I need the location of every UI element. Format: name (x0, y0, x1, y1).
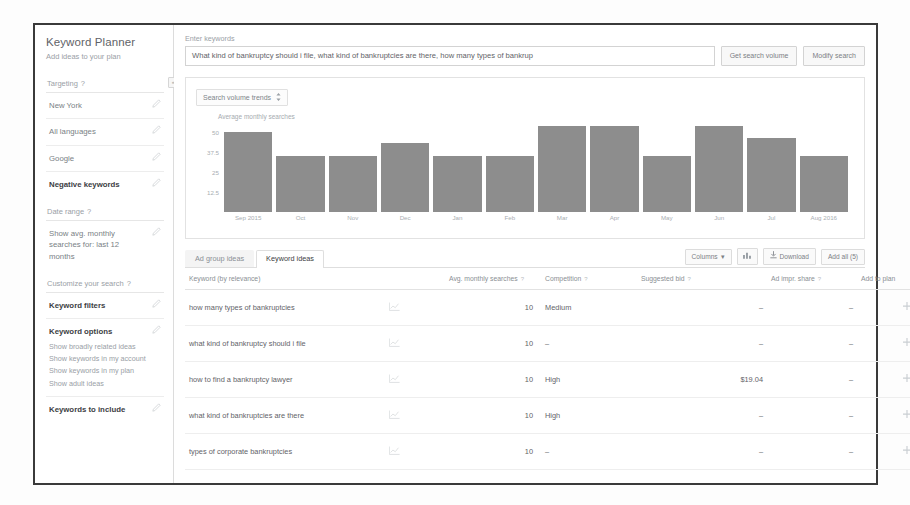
sidebar-item-date-range[interactable]: Show avg. monthly searches for: last 12 … (46, 221, 164, 269)
sidebar-item-languages[interactable]: All languages (46, 119, 164, 145)
edit-pencil-icon[interactable] (152, 299, 161, 308)
tab-ad-group-ideas[interactable]: Ad group ideas (185, 250, 254, 267)
col-trend (385, 268, 445, 290)
col-label: Avg. monthly searches (449, 275, 518, 282)
sidebar-item-keywords-to-include[interactable]: Keywords to include (46, 397, 164, 422)
trend-graph-icon[interactable] (385, 326, 445, 362)
cell-keyword[interactable]: types of corporate bankruptcies (185, 434, 385, 470)
chart-bar[interactable] (695, 126, 743, 212)
cell-keyword[interactable]: what kind of bankruptcy should i file (185, 326, 385, 362)
chart-bar[interactable] (329, 156, 377, 212)
edit-pencil-icon[interactable] (152, 227, 161, 236)
tab-keyword-ideas[interactable]: Keyword ideas (256, 250, 324, 268)
table-row[interactable]: types of corporate bankruptcies10––– (185, 434, 910, 470)
columns-button[interactable]: Columns ▾ (685, 249, 732, 265)
col-suggested-bid[interactable]: Suggested bid? (637, 268, 767, 290)
cell-keyword[interactable]: what kind of bankruptcies are there (185, 398, 385, 434)
search-input[interactable]: What kind of bankruptcy should i file, w… (185, 46, 715, 66)
trend-graph-icon[interactable] (385, 290, 445, 326)
chart-bar[interactable] (643, 156, 691, 212)
chart-bar[interactable] (747, 138, 795, 212)
info-icon[interactable]: ? (81, 79, 85, 88)
chart-bar-slot[interactable] (538, 122, 586, 212)
col-avg-monthly-searches[interactable]: Avg. monthly searches? (445, 268, 537, 290)
cell-keyword[interactable]: how to find a bankruptcy lawyer (185, 362, 385, 398)
chart-bar-slot[interactable] (329, 122, 377, 212)
cell-avg-monthly-searches: 10 (445, 434, 537, 470)
chart-metric-select[interactable]: Search volume trends (196, 89, 288, 106)
col-keyword[interactable]: Keyword (by relevance) (185, 268, 385, 290)
sidebar-item-keyword-filters[interactable]: Keyword filters (46, 293, 164, 319)
edit-pencil-icon[interactable] (152, 325, 161, 334)
chart-y-tick-label: 37.5 (207, 149, 219, 156)
sidebar-item-keyword-options[interactable]: Keyword options (46, 319, 164, 339)
col-ad-impr-share[interactable]: Ad impr. share? (767, 268, 857, 290)
chart-bar-slot[interactable] (747, 122, 795, 212)
add-to-plan-icon[interactable] (857, 290, 910, 326)
chart-x-tick-label: Nov (329, 212, 377, 226)
cell-keyword[interactable]: how many types of bankruptcies (185, 290, 385, 326)
modify-search-button[interactable]: Modify search (803, 46, 865, 66)
sidebar-item-network[interactable]: Google (46, 146, 164, 172)
edit-pencil-icon[interactable] (152, 99, 161, 108)
search-volume-chart-card: Search volume trends Average monthly sea… (185, 77, 865, 239)
col-competition[interactable]: Competition? (537, 268, 637, 290)
edit-pencil-icon[interactable] (152, 178, 161, 187)
add-to-plan-icon[interactable] (857, 326, 910, 362)
chart-bar-slot[interactable] (800, 122, 848, 212)
bar-chart-icon-button[interactable] (737, 248, 758, 265)
info-icon[interactable]: ? (127, 279, 131, 288)
chart-bar-slot[interactable] (643, 122, 691, 212)
cell-suggested-bid: – (637, 398, 767, 434)
sidebar-item-negative-keywords[interactable]: Negative keywords (46, 172, 164, 197)
add-to-plan-icon[interactable] (857, 362, 910, 398)
trend-graph-icon[interactable] (385, 362, 445, 398)
chart-bar[interactable] (590, 126, 638, 212)
chart-bar[interactable] (433, 156, 481, 212)
chart-bar-slot[interactable] (276, 122, 324, 212)
chart-x-tick-label: Oct (276, 212, 324, 226)
date-range-label-text: Date range (47, 207, 84, 216)
chart-bar[interactable] (381, 143, 429, 212)
info-icon[interactable]: ? (87, 207, 91, 216)
chart-bar[interactable] (538, 126, 586, 212)
chart-bar[interactable] (486, 156, 534, 212)
info-icon[interactable]: ? (818, 276, 821, 282)
edit-pencil-icon[interactable] (152, 125, 161, 134)
sidebar-item-label: Keywords to include (49, 405, 125, 414)
cell-competition: High (537, 398, 637, 434)
table-row[interactable]: how to find a bankruptcy lawyer10High$19… (185, 362, 910, 398)
sidebar-item-label: Keyword filters (49, 301, 105, 310)
cell-suggested-bid: $19.04 (637, 362, 767, 398)
trend-graph-icon[interactable] (385, 434, 445, 470)
chart-bar-slot[interactable] (224, 122, 272, 212)
table-row[interactable]: what kind of bankruptcy should i file10–… (185, 326, 910, 362)
cell-avg-monthly-searches: 10 (445, 362, 537, 398)
add-to-plan-icon[interactable] (857, 434, 910, 470)
chart-bar[interactable] (224, 132, 272, 212)
sidebar-section-date-range-label: Date range ? (47, 207, 164, 216)
chart-bar-slot[interactable] (590, 122, 638, 212)
add-to-plan-icon[interactable] (857, 398, 910, 434)
edit-pencil-icon[interactable] (152, 403, 161, 412)
table-row[interactable]: what kind of bankruptcies are there10Hig… (185, 398, 910, 434)
get-search-volume-button[interactable]: Get search volume (721, 46, 798, 66)
chart-bar-slot[interactable] (486, 122, 534, 212)
chart-bar[interactable] (276, 156, 324, 212)
chart-bar-slot[interactable] (381, 122, 429, 212)
info-icon[interactable]: ? (584, 276, 587, 282)
table-row[interactable]: how many types of bankruptcies10Medium–– (185, 290, 910, 326)
chart-bar-slot[interactable] (695, 122, 743, 212)
cell-avg-monthly-searches: 10 (445, 326, 537, 362)
chart-y-tick-label: 12.5 (207, 189, 219, 196)
chart-bar-slot[interactable] (433, 122, 481, 212)
info-icon[interactable]: ? (687, 276, 690, 282)
info-icon[interactable]: ? (521, 276, 524, 282)
add-all-button[interactable]: Add all (5) (821, 249, 865, 265)
download-button[interactable]: Download (763, 248, 816, 265)
trend-graph-icon[interactable] (385, 398, 445, 434)
chart-bar[interactable] (800, 156, 848, 212)
keyword-options-list: Show broadly related ideas Show keywords… (46, 340, 164, 398)
edit-pencil-icon[interactable] (152, 152, 161, 161)
sidebar-item-location[interactable]: New York (46, 93, 164, 119)
